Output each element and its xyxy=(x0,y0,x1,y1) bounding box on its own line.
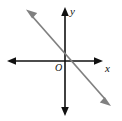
x-axis-label: x xyxy=(105,63,110,74)
y-axis-label: y xyxy=(70,6,75,17)
graph-canvas xyxy=(0,0,122,121)
coordinate-plane-figure: y x O xyxy=(0,0,122,121)
origin-label: O xyxy=(55,62,62,73)
